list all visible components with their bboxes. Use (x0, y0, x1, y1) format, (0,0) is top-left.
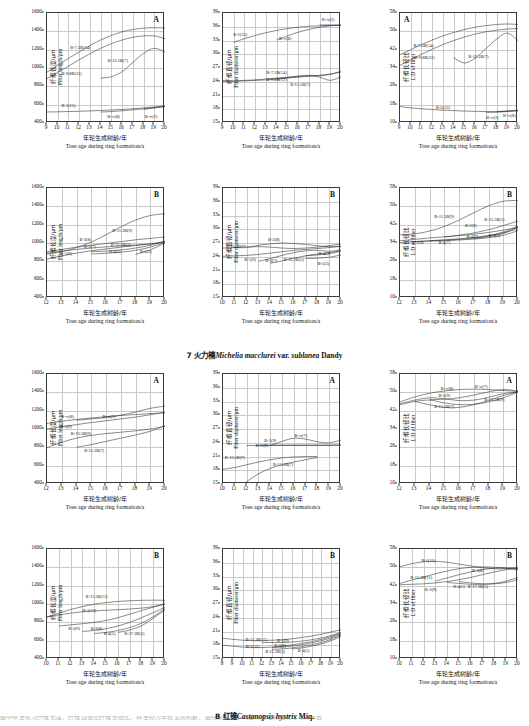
chart-cell-r4c3: BB-1(11)B-11.3B(11)B-3(8)B-2(9)B-4(5)B-1… (353, 536, 529, 711)
x-tick-mark (75, 483, 76, 486)
y-axis-label: 纤维长度/μmFiber length/μm (44, 373, 70, 483)
x-tick-mark (264, 122, 265, 125)
x-tick-label: 14 (90, 661, 95, 666)
x-tick-label: 14 (450, 125, 455, 130)
x-tick-label: 11 (231, 300, 236, 305)
x-tick-label: 9 (221, 125, 224, 130)
x-tick-mark (46, 483, 47, 486)
x-tick-mark (281, 483, 282, 486)
x-tick-label: 10 (396, 661, 401, 666)
x-tick-mark (164, 297, 165, 300)
x-tick-mark (88, 122, 89, 125)
x-tick-label: 18 (132, 300, 137, 305)
x-tick-label: 18 (485, 486, 490, 491)
caption-rank: var. (276, 351, 292, 360)
series-annotation: B-5(15) (436, 106, 450, 111)
x-tick-label: 13 (255, 300, 260, 305)
x-tick-mark (254, 122, 255, 125)
plot-area-r4c2: BB-11.3B(11)B-2(9)B-1(11)B-3(8)B-11.3B(5… (222, 548, 340, 658)
chart-cell-r2c2: BB-2(8)B-11.3B(9)B-1(9)B-3(7)B-15.3B(5)B… (176, 175, 352, 350)
x-tick-label: 20 (337, 486, 342, 491)
x-tick-mark (505, 658, 506, 661)
x-tick-mark (46, 297, 47, 300)
caption-subspecies: sublanea (291, 351, 319, 360)
y-axis-ticks: 4006008001000120014001600 (24, 373, 44, 483)
x-tick-mark (304, 297, 305, 300)
series-annotation: B-4(5) (104, 632, 116, 637)
x-tick-label: 18 (314, 486, 319, 491)
caption-sci-name: Michelia macclurei (215, 351, 275, 360)
x-tick-mark (472, 297, 473, 300)
x-tick-mark (140, 658, 141, 661)
y-axis-label-cn: 纤维长度/μm (50, 585, 57, 621)
caption-authority: Dandy (319, 351, 342, 360)
series-annotation: B-13.5B(9) (71, 431, 91, 436)
series-annotation: B-∞(8) (503, 114, 516, 119)
x-tick-mark (441, 122, 442, 125)
y-tick-label: 1200 (31, 221, 42, 226)
x-axis-label-en: Tree age during ring formation/a (389, 678, 527, 686)
x-tick-mark (75, 297, 76, 300)
x-tick-label: 19 (151, 125, 156, 130)
plot-area-r3c2: AB-∞(7)B-1(9)B-∞(8)B-13.5B(9)B-15.3B(7)1… (222, 373, 340, 483)
x-tick-mark (105, 297, 106, 300)
x-tick-mark (99, 122, 100, 125)
series-annotation: B-1(11) (421, 559, 435, 564)
series-annotation: B-13.5B(7) (108, 59, 128, 64)
x-tick-mark (340, 297, 341, 300)
x-tick-mark (487, 297, 488, 300)
x-tick-label: 15 (441, 300, 446, 305)
x-tick-mark (245, 297, 246, 300)
x-tick-label: 10 (239, 661, 244, 666)
x-tick-mark (233, 297, 234, 300)
x-tick-label: 15 (441, 486, 446, 491)
chart-row-3: AB-∞(8)B-∞(7)B-5(9)B-13.5B(9)B-15.3B(7)4… (0, 361, 529, 536)
series-annotation: B-4(3) (109, 249, 121, 254)
y-axis-label-en: Fiber diameter/μm (233, 46, 240, 88)
x-axis-label: 年轮生成树龄/年Tree age during ring formation/a (389, 495, 527, 511)
x-tick-mark (329, 122, 330, 125)
y-axis-label-en: Fiber diameter/μm (233, 407, 240, 449)
x-tick-mark (428, 483, 429, 486)
x-tick-mark (487, 483, 488, 486)
x-tick-mark (434, 658, 435, 661)
x-tick-mark (428, 297, 429, 300)
x-tick-mark (134, 297, 135, 300)
x-tick-label: 20 (161, 125, 166, 130)
y-axis-label: 纤维长径比L/D of fiber (397, 373, 423, 483)
x-tick-label: 9 (230, 661, 233, 666)
series-annotation: B-11.3B(9) (434, 215, 454, 220)
x-tick-mark (420, 122, 421, 125)
x-tick-mark (245, 483, 246, 486)
y-axis-label-en: L/D of fiber (410, 52, 417, 82)
x-tick-mark (116, 658, 117, 661)
x-tick-label: 13 (411, 486, 416, 491)
plot-area-r3c1: AB-∞(8)B-∞(7)B-5(9)B-13.5B(9)B-15.3B(7)4… (46, 373, 164, 483)
x-tick-mark (399, 297, 400, 300)
series-annotation: B-15.3B(7) (84, 449, 104, 454)
chart-cell-r3c1: AB-∞(8)B-∞(7)B-5(9)B-13.5B(9)B-15.3B(7)4… (0, 361, 176, 536)
x-tick-mark (269, 297, 270, 300)
x-tick-label: 12 (251, 125, 256, 130)
series-annotation: B-2(8) (79, 237, 91, 242)
x-tick-label: 19 (325, 486, 330, 491)
y-tick-label: 1000 (31, 600, 42, 605)
x-tick-label: 19 (149, 661, 154, 666)
x-tick-mark (340, 658, 341, 661)
x-axis-label-cn: 年轮生成树龄/年 (36, 495, 174, 503)
series-annotation: B-13.5B(7) (468, 55, 488, 60)
x-tick-mark (517, 483, 518, 486)
x-axis-label-cn: 年轮生成树龄/年 (36, 670, 174, 678)
x-tick-mark (269, 483, 270, 486)
x-tick-mark (222, 483, 223, 486)
x-tick-mark (152, 658, 153, 661)
y-axis-label-en: L/D of fiber (410, 588, 417, 618)
y-axis-label-en: L/D of fiber (410, 227, 417, 257)
x-tick-mark (517, 658, 518, 661)
x-tick-mark (67, 122, 68, 125)
x-tick-label: 12 (396, 486, 401, 491)
x-tick-mark (307, 122, 308, 125)
x-tick-label: 15 (102, 661, 107, 666)
x-tick-label: 17 (302, 300, 307, 305)
series-annotation: B-5(3) (317, 261, 329, 266)
